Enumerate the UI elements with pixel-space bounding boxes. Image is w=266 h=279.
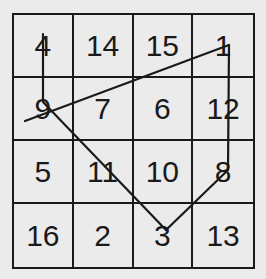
grid-cell: 10 — [134, 141, 194, 204]
grid-cell: 7 — [74, 78, 134, 141]
cell-number: 8 — [215, 155, 232, 189]
grid-cell: 14 — [74, 15, 134, 78]
cell-number: 13 — [206, 219, 239, 253]
grid-cell: 9 — [14, 78, 74, 141]
cell-number: 2 — [94, 219, 111, 253]
cell-number: 9 — [35, 92, 52, 126]
grid-cell: 2 — [74, 204, 134, 267]
grid-cell: 4 — [14, 15, 74, 78]
grid-cell: 11 — [74, 141, 134, 204]
cell-number: 10 — [146, 155, 179, 189]
cell-number: 16 — [26, 219, 59, 253]
cell-number: 3 — [154, 219, 171, 253]
grid-cell: 15 — [134, 15, 194, 78]
cell-number: 14 — [86, 29, 119, 63]
grid-cell: 13 — [193, 204, 253, 267]
cell-number: 1 — [215, 29, 232, 63]
cell-number: 15 — [146, 29, 179, 63]
grid-cell: 12 — [193, 78, 253, 141]
grid-cell: 5 — [14, 141, 74, 204]
grid-cell: 3 — [134, 204, 194, 267]
grid-cell: 1 — [193, 15, 253, 78]
grid-cell: 8 — [193, 141, 253, 204]
grid-cell: 6 — [134, 78, 194, 141]
magic-square-grid: 41415197612511108162313 — [12, 13, 255, 269]
cell-number: 6 — [154, 92, 171, 126]
cell-number: 4 — [35, 29, 52, 63]
grid-cell: 16 — [14, 204, 74, 267]
cell-number: 5 — [35, 155, 52, 189]
cell-number: 11 — [87, 155, 118, 189]
cell-number: 12 — [206, 92, 239, 126]
cell-number: 7 — [94, 92, 111, 126]
